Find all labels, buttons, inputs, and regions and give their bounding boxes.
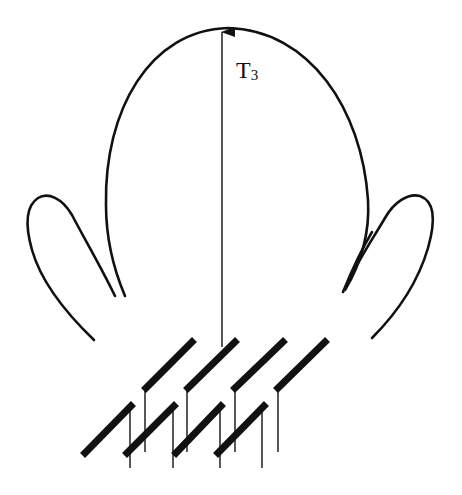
- dipole-element: [235, 342, 283, 388]
- dipole-element: [218, 406, 264, 453]
- dipole-element: [127, 406, 174, 453]
- radiation-pattern-diagram: T3: [0, 0, 462, 495]
- dipole-element: [85, 406, 131, 453]
- dipole-element: [188, 342, 235, 388]
- direction-label: T3: [236, 57, 258, 83]
- array-row-bottom: [85, 406, 264, 468]
- dipole-element: [146, 342, 192, 388]
- right-side-lobe-inner: [343, 232, 372, 292]
- right-side-lobe: [347, 195, 433, 338]
- dipole-element: [176, 406, 221, 453]
- dipole-element: [278, 342, 325, 388]
- left-side-lobe: [28, 196, 115, 340]
